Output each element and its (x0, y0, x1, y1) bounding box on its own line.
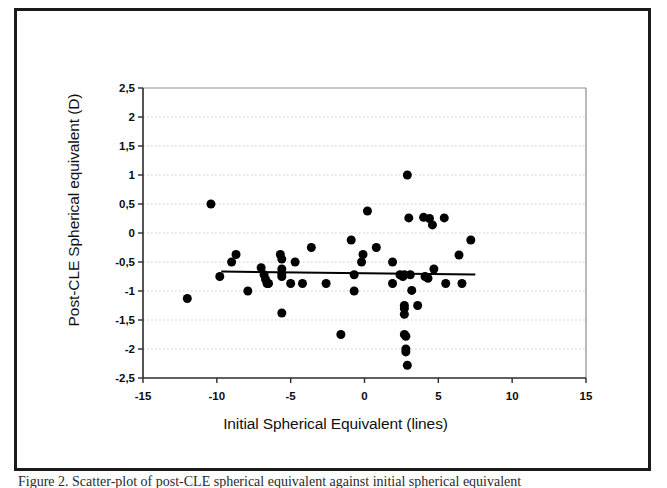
data-point (404, 213, 413, 222)
data-point (286, 279, 295, 288)
data-point (291, 258, 300, 267)
data-point (403, 171, 412, 180)
y-axis-tick-label: 2 (91, 111, 135, 123)
data-point (277, 309, 286, 318)
data-point (243, 287, 252, 296)
data-point (264, 279, 273, 288)
x-axis-title: Initial Spherical Equivalent (lines) (17, 415, 654, 433)
data-point (400, 310, 409, 319)
x-axis-tick-label: 0 (361, 390, 367, 402)
y-axis-tick-label: 2,5 (91, 82, 135, 94)
data-point (359, 250, 368, 259)
x-axis-tick-label: 15 (580, 390, 593, 402)
scatter-chart: Post-CLE Spherical equivalent (D) Initia… (17, 11, 654, 474)
data-point (232, 250, 241, 259)
y-axis-tick-label: -1,5 (91, 314, 135, 326)
data-point (457, 279, 466, 288)
data-point (413, 301, 422, 310)
x-axis-tick-label: -5 (286, 390, 296, 402)
data-point (424, 274, 433, 283)
data-point (307, 243, 316, 252)
y-axis-tick-label: -1 (91, 285, 135, 297)
data-point (403, 361, 412, 370)
figure-caption: Figure 2. Scatter-plot of post-CLE spher… (18, 474, 658, 488)
y-axis-title: Post-CLE Spherical equivalent (D) (65, 75, 83, 345)
data-point (429, 264, 438, 273)
data-point (183, 294, 192, 303)
data-point (440, 213, 449, 222)
y-axis-tick-label: 1 (91, 169, 135, 181)
data-point (455, 251, 464, 260)
y-axis-tick-label: 0 (91, 227, 135, 239)
data-point (372, 243, 381, 252)
x-axis-tick-label: 5 (435, 390, 441, 402)
y-axis-tick-label: 1,5 (91, 140, 135, 152)
data-point (388, 279, 397, 288)
y-axis-tick-label: -0,5 (91, 256, 135, 268)
x-axis-tick-label: -15 (135, 390, 152, 402)
data-point (350, 287, 359, 296)
data-point (298, 279, 307, 288)
data-point (357, 258, 366, 267)
data-point (277, 255, 286, 264)
data-point (277, 272, 286, 281)
data-point (441, 279, 450, 288)
data-point (401, 332, 410, 341)
data-point (407, 286, 416, 295)
y-axis-tick-label: 0,5 (91, 198, 135, 210)
x-axis-tick-label: 10 (506, 390, 519, 402)
data-point (322, 279, 331, 288)
x-axis-tick-label: -10 (209, 390, 226, 402)
plot-canvas (17, 11, 654, 474)
y-axis-tick-label: -2 (91, 343, 135, 355)
figure-frame: Post-CLE Spherical equivalent (D) Initia… (14, 8, 651, 471)
data-point (206, 200, 215, 209)
y-axis-tick-label: -2,5 (91, 372, 135, 384)
data-point (466, 235, 475, 244)
data-point (428, 220, 437, 229)
data-point (227, 258, 236, 267)
data-point (347, 235, 356, 244)
data-point (388, 258, 397, 267)
data-point (401, 347, 410, 356)
data-point (363, 206, 372, 215)
data-point (336, 330, 345, 339)
data-point (215, 272, 224, 281)
data-point (350, 270, 359, 279)
